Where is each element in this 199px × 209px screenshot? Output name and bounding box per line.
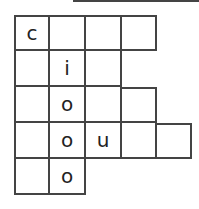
grid-cell[interactable] (14, 51, 50, 87)
grid-cell[interactable]: u (86, 123, 122, 159)
grid-cell[interactable] (86, 15, 122, 51)
grid-cell[interactable]: o (50, 87, 86, 123)
grid-cell[interactable] (14, 159, 50, 195)
grid-cell[interactable]: i (50, 51, 86, 87)
grid-cell[interactable] (14, 123, 50, 159)
grid-cell[interactable]: o (50, 159, 86, 195)
grid-cell[interactable]: o (50, 123, 86, 159)
grid-cell[interactable]: c (14, 15, 50, 51)
grid-cell[interactable] (14, 87, 50, 123)
grid-cell[interactable] (86, 87, 122, 123)
grid-cell[interactable] (122, 51, 157, 87)
grid-cell[interactable] (50, 15, 86, 51)
grid-cell[interactable] (86, 51, 122, 87)
answer-line (73, 0, 199, 2)
grid-cell[interactable] (122, 123, 157, 159)
grid-cell[interactable] (122, 87, 157, 123)
grid-cell[interactable] (122, 15, 157, 51)
grid-cell[interactable] (157, 123, 192, 159)
